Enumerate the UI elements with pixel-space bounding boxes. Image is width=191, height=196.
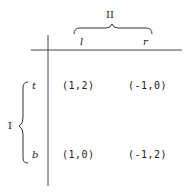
matrix-lines [0, 0, 191, 196]
payoff-cell-b-l: (1,0) [62, 150, 95, 160]
column-strategy-l: l [80, 37, 83, 47]
row-strategy-t: t [32, 81, 36, 91]
column-player-label: II [106, 10, 114, 20]
column-player-brace [74, 24, 152, 34]
payoff-cell-t-r: (-1,0) [128, 81, 167, 91]
column-strategy-r: r [143, 37, 148, 47]
payoff-cell-t-l: (1,2) [62, 81, 95, 91]
row-player-brace [19, 82, 28, 163]
payoff-cell-b-r: (-1,2) [128, 150, 167, 160]
row-strategy-b: b [32, 150, 38, 160]
row-player-label: I [8, 121, 12, 131]
